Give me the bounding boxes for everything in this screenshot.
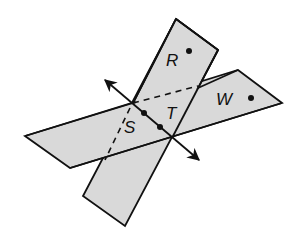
label-T: T [166,104,178,123]
point-W [248,95,254,101]
label-S: S [124,118,136,137]
point-R [186,48,192,54]
label-W: W [216,90,234,109]
diagram-canvas: R W S T [0,0,304,242]
point-S [141,110,147,116]
label-R: R [166,51,178,70]
point-T [157,124,163,130]
